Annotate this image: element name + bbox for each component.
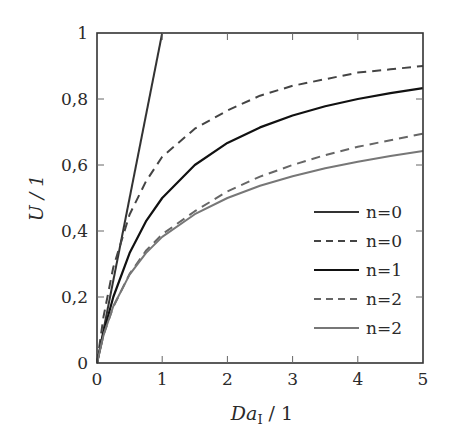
legend-label: n=2 — [366, 318, 402, 338]
legend-label: n=0 — [366, 231, 402, 251]
plot-frame — [97, 33, 423, 363]
x-tick-label: 2 — [222, 369, 233, 389]
y-axis-label: U / 1 — [25, 175, 47, 222]
x-tick-label: 0 — [92, 369, 103, 389]
legend-label: n=0 — [366, 202, 402, 222]
chart: 012345 00,20,40,60,81 n=0n=0n=1n=2n=2 Da… — [0, 0, 452, 448]
legend-label: n=1 — [366, 260, 402, 280]
x-tick-label: 4 — [352, 369, 363, 389]
x-tick-label: 5 — [418, 369, 429, 389]
y-tick-label: 0,4 — [61, 221, 88, 241]
series-line-n0-solid — [97, 33, 162, 363]
legend: n=0n=0n=1n=2n=2 — [314, 202, 402, 338]
y-tick-label: 0,6 — [61, 155, 88, 175]
x-tick-label: 3 — [287, 369, 298, 389]
y-tick-label: 0,8 — [61, 89, 88, 109]
y-tick-label: 0,2 — [61, 287, 88, 307]
x-axis-label: DaI / 1 — [230, 402, 293, 427]
x-tick-label: 1 — [157, 369, 168, 389]
y-tick-label: 0 — [77, 353, 88, 373]
y-tick-label: 1 — [77, 23, 88, 43]
legend-label: n=2 — [366, 289, 402, 309]
plot-area — [97, 33, 423, 363]
